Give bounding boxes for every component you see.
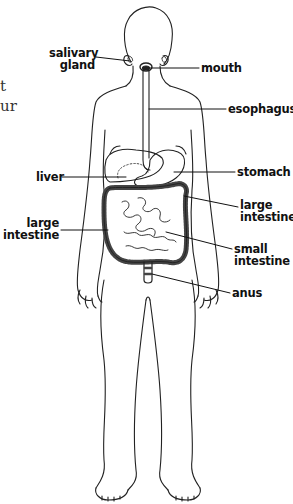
label-intestine: intestine	[2, 229, 59, 241]
label-large-intestine-left: large intestine	[2, 217, 59, 241]
label-salivary-gland: salivary gland	[49, 47, 95, 71]
label-intestine: intestine	[234, 255, 290, 267]
label-gland: gland	[49, 59, 95, 71]
label-large-intestine-right: large intestine	[240, 199, 293, 223]
label-mouth: mouth	[201, 62, 242, 74]
leader-small-intestine	[166, 232, 232, 249]
label-liver: liver	[36, 171, 64, 183]
leader-salivary-gland	[96, 57, 130, 61]
label-small-intestine: small intestine	[234, 243, 290, 267]
leader-large-intestine-right	[184, 196, 238, 207]
label-intestine: intestine	[240, 211, 293, 223]
label-anus: anus	[232, 287, 262, 299]
label-esophagus: esophagus	[228, 103, 293, 115]
label-stomach: stomach	[237, 166, 291, 178]
